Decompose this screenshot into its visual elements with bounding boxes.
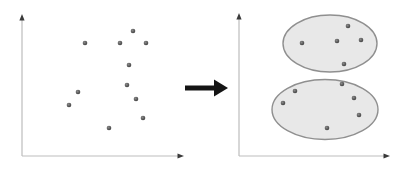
cluster-ellipse [272, 80, 378, 140]
data-point [281, 101, 286, 106]
cluster-ellipse [283, 15, 377, 72]
data-point [134, 97, 139, 102]
data-point [300, 41, 305, 46]
x-axis-arrowhead [384, 153, 391, 158]
x-axis-arrowhead [178, 153, 185, 158]
y-axis-arrowhead [19, 14, 24, 21]
data-point [359, 38, 364, 43]
right-clustered-plot [236, 13, 390, 159]
data-point [346, 24, 351, 29]
diagram-svg [0, 0, 404, 169]
transform-arrow [185, 80, 228, 97]
data-point [127, 63, 132, 68]
y-axis-arrowhead [236, 13, 241, 20]
data-point [125, 83, 130, 88]
data-point [335, 39, 340, 44]
transform-arrow-head [214, 80, 228, 97]
data-point [340, 82, 345, 87]
data-point [83, 41, 88, 46]
data-point [118, 41, 123, 46]
data-point [144, 41, 149, 46]
data-point [76, 90, 81, 95]
data-point [352, 96, 357, 101]
data-point [67, 103, 72, 108]
data-point [293, 89, 298, 94]
data-point [325, 126, 330, 131]
data-point [357, 113, 362, 118]
data-point [342, 62, 347, 67]
data-point [141, 116, 146, 121]
left-scatter-plot [19, 14, 184, 159]
data-point [131, 29, 136, 34]
data-point [107, 126, 112, 131]
clustering-diagram [0, 0, 404, 169]
